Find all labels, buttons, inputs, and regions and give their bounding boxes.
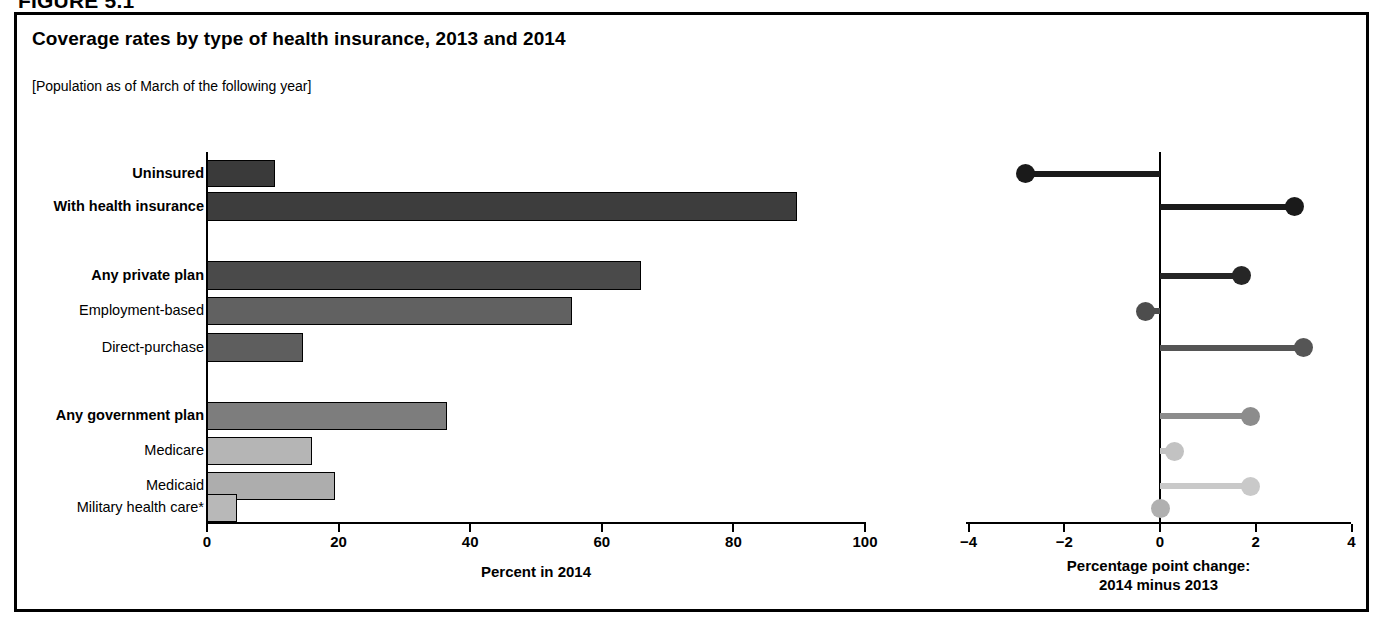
left-axis-tick-label: 40 <box>462 533 479 550</box>
left-axis-tick-label: 100 <box>852 533 877 550</box>
category-label: Medicare <box>144 443 204 457</box>
left-axis-tick <box>601 524 603 532</box>
left-axis-tick-label: 60 <box>593 533 610 550</box>
category-label: Any government plan <box>56 408 204 422</box>
category-label: Medicaid <box>146 478 204 492</box>
bar <box>207 261 641 290</box>
right-axis-tick <box>1255 524 1257 532</box>
left-axis-tick <box>338 524 340 532</box>
right-axis-title-line2: 2014 minus 2013 <box>966 575 1351 594</box>
category-label: Uninsured <box>132 166 204 180</box>
left-axis-tick-label: 0 <box>203 533 211 550</box>
left-axis-tick <box>206 524 208 532</box>
change-stem <box>1160 345 1304 351</box>
right-axis-tick <box>1351 524 1353 532</box>
change-dot <box>1241 477 1260 496</box>
right-axis-tick-label: 4 <box>1347 533 1355 550</box>
bar <box>207 160 275 187</box>
change-dot <box>1241 407 1260 426</box>
right-axis-tick-label: 0 <box>1156 533 1164 550</box>
left-axis-tick-label: 20 <box>330 533 347 550</box>
bar <box>207 437 312 465</box>
change-dot <box>1136 302 1155 321</box>
category-label: Direct-purchase <box>102 340 204 354</box>
chart-title: Coverage rates by type of health insuran… <box>32 28 566 50</box>
right-axis-title-line1: Percentage point change: <box>966 556 1351 575</box>
category-label: Employment-based <box>79 303 204 317</box>
change-dot <box>1285 197 1304 216</box>
category-label: Military health care* <box>77 500 204 514</box>
bar <box>207 333 303 362</box>
change-dot <box>1165 442 1184 461</box>
figure-label: FIGURE 5.1 <box>18 0 134 12</box>
change-dot <box>1232 266 1251 285</box>
change-stem <box>1160 273 1241 279</box>
right-axis-tick-label: −2 <box>1056 533 1073 550</box>
left-chart-x-axis <box>206 522 866 524</box>
right-axis-tick-label: −4 <box>960 533 977 550</box>
right-axis-tick <box>1159 524 1161 532</box>
change-stem <box>1026 171 1160 177</box>
change-stem <box>1160 204 1294 210</box>
right-axis-tick-label: 2 <box>1252 533 1260 550</box>
change-stem <box>1160 483 1251 489</box>
change-dot <box>1294 338 1313 357</box>
category-label: Any private plan <box>91 268 204 282</box>
left-axis-tick <box>864 524 866 532</box>
right-chart-axis-title: Percentage point change: 2014 minus 2013 <box>966 556 1351 594</box>
right-axis-tick <box>968 524 970 532</box>
bar <box>207 402 447 430</box>
bar <box>207 494 237 522</box>
chart-subtitle: [Population as of March of the following… <box>32 78 311 94</box>
change-dot <box>1151 499 1170 518</box>
left-axis-tick <box>469 524 471 532</box>
bar <box>207 297 572 325</box>
left-axis-tick <box>732 524 734 532</box>
left-axis-tick-label: 80 <box>725 533 742 550</box>
category-label: With health insurance <box>53 199 204 213</box>
bar <box>207 192 797 221</box>
right-axis-tick <box>1063 524 1065 532</box>
left-chart-axis-title: Percent in 2014 <box>206 563 866 580</box>
change-stem <box>1160 413 1251 419</box>
